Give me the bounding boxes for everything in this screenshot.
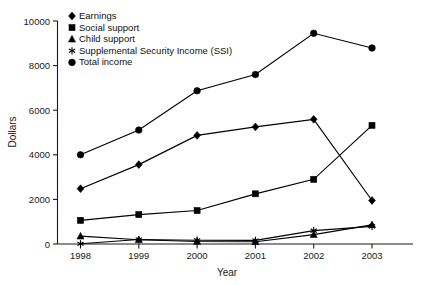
legend-label: Earnings <box>79 10 117 21</box>
y-tick-label-4000: 4000 <box>29 149 50 160</box>
x-tick-label-2002: 2002 <box>303 250 324 261</box>
legend-item-total-income: Total income <box>69 56 133 67</box>
legend-label: Total income <box>79 56 132 67</box>
data-point <box>369 45 376 52</box>
y-axis-title: Dollars <box>7 116 18 147</box>
data-point <box>194 87 201 94</box>
legend-label: Child support <box>79 33 135 44</box>
x-tick-label-1999: 1999 <box>128 250 149 261</box>
square-marker-icon <box>69 25 75 31</box>
y-tick-label-0: 0 <box>45 239 50 250</box>
y-tick-label-2000: 2000 <box>29 194 50 205</box>
x-tick-label-2003: 2003 <box>361 250 382 261</box>
chart-canvas: Dollars 10000 8000 6000 4000 2000 0 <box>0 0 423 285</box>
circle-marker-icon <box>69 59 76 66</box>
x-tick-label-2001: 2001 <box>245 250 266 261</box>
data-point <box>194 208 200 214</box>
data-point <box>136 212 142 218</box>
data-point <box>77 152 84 159</box>
legend-item-supplemental-security-income-ssi: Supplemental Security Income (SSI) <box>69 45 232 56</box>
legend-item-social-support: Social support <box>69 22 140 33</box>
legend-item-child-support: Child support <box>69 33 136 44</box>
legend-label: Social support <box>79 22 140 33</box>
chart-background <box>0 0 423 285</box>
line-chart-figure: Dollars 10000 8000 6000 4000 2000 0 <box>0 0 423 285</box>
x-axis-title: Year <box>217 267 238 278</box>
y-tick-label-10000: 10000 <box>24 16 50 27</box>
data-point <box>311 176 317 182</box>
data-point <box>252 191 258 197</box>
y-tick-label-8000: 8000 <box>29 60 50 71</box>
x-tick-label-2000: 2000 <box>187 250 208 261</box>
y-tick-label-6000: 6000 <box>29 105 50 116</box>
x-tick-label-1998: 1998 <box>70 250 91 261</box>
data-point <box>252 71 259 78</box>
data-point <box>310 30 317 37</box>
data-point <box>78 217 84 223</box>
data-point <box>369 122 375 128</box>
data-point <box>136 127 143 134</box>
legend-label: Supplemental Security Income (SSI) <box>79 45 232 56</box>
